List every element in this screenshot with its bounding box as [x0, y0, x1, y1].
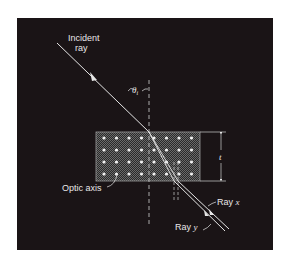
birefringence-diagram: Incident ray θi t Optic axis Ray x Ray y	[0, 0, 283, 265]
ray-x-label: Ray x	[217, 197, 240, 207]
ray-y-label: Ray y	[175, 222, 198, 232]
incident-ray-label-line1: Incident	[68, 33, 100, 43]
optic-axis-label: Optic axis	[62, 183, 102, 193]
crystal-slab	[96, 132, 200, 181]
incident-ray-label-line2: ray	[75, 43, 88, 53]
